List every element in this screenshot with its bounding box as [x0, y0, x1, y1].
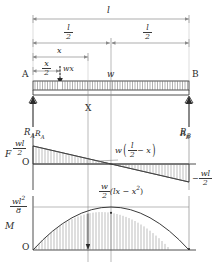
shear-reaction-a-label: RA [35, 130, 45, 140]
moment-max-denominator: 8 [10, 207, 27, 215]
moment-equation-body: (lx − x [110, 188, 137, 196]
moment-axis-label: M [5, 222, 14, 231]
shear-equation-denominator: 2 [128, 151, 137, 159]
support-label-b: B [192, 70, 199, 79]
moment-max-num-text: wl [12, 197, 21, 206]
shear-max-denominator: 2 [13, 149, 26, 157]
moment-equation-tail: ) [140, 188, 143, 196]
shear-max-label: wl 2 [13, 140, 26, 157]
moment-equation: w 2 (lx − x2) [99, 183, 143, 200]
support-label-a: A [22, 70, 29, 79]
shear-reaction-b-label: RB [180, 130, 190, 140]
bending-moment-diagram [33, 196, 196, 250]
shear-min-denominator: 2 [199, 179, 212, 187]
half-left-denominator: 2 [64, 33, 73, 41]
moment-equation-denominator: 2 [99, 192, 110, 200]
shear-equation-minus-x: − x [137, 147, 151, 155]
moment-max-exponent: 2 [21, 195, 25, 201]
reaction-a-label: RA [24, 128, 35, 139]
shear-min-label: − wl 2 [192, 170, 212, 187]
moment-max-label: wl2 8 [10, 196, 27, 215]
point-load-label: wx [63, 65, 74, 73]
section-line-x [88, 48, 111, 262]
shear-axis-label: F [5, 150, 11, 159]
half-right-denominator: 2 [143, 33, 152, 41]
shear-equation: w( l 2 − x) [115, 142, 157, 159]
dimension-half-x: x 2 [42, 60, 51, 77]
half-x-denominator: 2 [42, 69, 51, 77]
shear-equation-paren-close: ) [152, 143, 155, 158]
section-label-x: X [85, 104, 91, 113]
shear-reaction-b-subscript: B [186, 134, 190, 140]
shear-origin-label: O [22, 158, 29, 167]
udl-label: w [107, 70, 114, 79]
moment-hatching [36, 212, 168, 250]
dimension-half-left: l 2 [64, 24, 73, 41]
dimension-half-right: l 2 [143, 24, 152, 41]
beam-diagram-figure: l l 2 l 2 x x 2 wx A B w X RA RB RA RB F [0, 0, 216, 263]
dimension-span-label: l [107, 6, 110, 15]
shear-equation-lead: w [115, 147, 122, 155]
shear-equation-paren-open: ( [123, 143, 126, 158]
dimension-x-label: x [57, 47, 62, 55]
shear-min-sign: − [192, 174, 199, 183]
shear-reaction-a-subscript: A [41, 134, 45, 140]
moment-origin-label: O [22, 243, 29, 252]
